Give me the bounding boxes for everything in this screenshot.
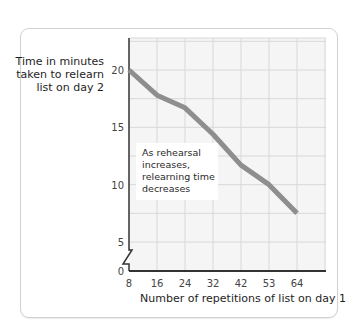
x-tick-label: 8 — [126, 278, 132, 289]
x-tick-label: 53 — [263, 278, 276, 289]
x-tick-label: 16 — [151, 278, 164, 289]
annotation-box: As rehearsal increases, relearning time … — [136, 143, 218, 200]
x-tick-label: 64 — [291, 278, 304, 289]
y-tick-label: 10 — [111, 180, 124, 191]
annotation-line: decreases — [142, 183, 214, 195]
y-tick-label: 0 — [118, 266, 124, 277]
x-axis-title: Number of repetitions of list on day 1 — [140, 292, 352, 305]
y-tick-label: 20 — [111, 65, 124, 76]
annotation-line: increases, — [142, 159, 214, 171]
x-tick-label: 32 — [207, 278, 220, 289]
annotation-line: relearning time — [142, 171, 214, 183]
x-tick-label: 42 — [235, 278, 248, 289]
x-tick-label: 24 — [179, 278, 192, 289]
annotation-line: As rehearsal — [142, 147, 214, 159]
y-tick-label: 5 — [118, 237, 124, 248]
y-tick-label: 15 — [111, 122, 124, 133]
